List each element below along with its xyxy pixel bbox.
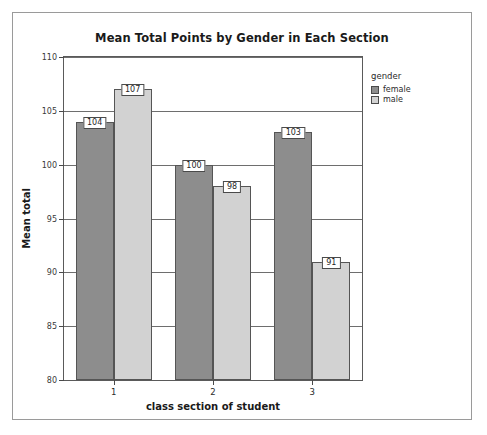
y-tick-mark — [59, 165, 64, 166]
y-tick-label: 105 — [42, 106, 57, 115]
x-tick-label: 3 — [310, 387, 315, 397]
plot-area: 808590951001051101041071100982103913 — [63, 56, 363, 381]
bar-value-label: 100 — [182, 160, 205, 172]
y-tick-mark — [59, 57, 64, 58]
y-tick-label: 110 — [42, 53, 57, 62]
bar-male-section-2[interactable]: 98 — [213, 186, 251, 380]
y-tick-mark — [59, 380, 64, 381]
bar-value-label: 107 — [121, 84, 144, 96]
x-tick-mark — [312, 380, 313, 385]
y-tick-mark — [59, 111, 64, 112]
bar-male-section-1[interactable]: 107 — [114, 89, 152, 380]
y-axis-title: Mean total — [19, 56, 33, 381]
y-axis-title-label: Mean total — [21, 188, 32, 249]
bar-female-section-2[interactable]: 100 — [175, 165, 213, 380]
legend-swatch-icon — [371, 86, 379, 94]
y-tick-label: 100 — [42, 160, 57, 169]
legend-items: femalemale — [371, 85, 466, 104]
legend-swatch-icon — [371, 96, 379, 104]
legend-label: male — [383, 95, 403, 104]
y-tick-label: 80 — [47, 376, 57, 385]
legend-item-female[interactable]: female — [371, 85, 466, 94]
chart-title: Mean Total Points by Gender in Each Sect… — [13, 31, 471, 45]
bar-female-section-1[interactable]: 104 — [76, 122, 114, 380]
legend-label: female — [383, 85, 411, 94]
bar-value-label: 91 — [322, 257, 340, 269]
y-tick-mark — [59, 219, 64, 220]
bar-male-section-3[interactable]: 91 — [312, 262, 350, 380]
bar-value-label: 98 — [223, 181, 241, 193]
y-tick-label: 85 — [47, 322, 57, 331]
x-tick-label: 2 — [210, 387, 215, 397]
x-tick-mark — [114, 380, 115, 385]
y-tick-mark — [59, 326, 64, 327]
gridline — [64, 111, 362, 112]
y-tick-mark — [59, 272, 64, 273]
x-tick-mark — [213, 380, 214, 385]
chart-legend: gender femalemale — [371, 71, 466, 105]
bar-value-label: 104 — [83, 117, 106, 129]
bar-value-label: 103 — [282, 127, 305, 139]
legend-title: gender — [371, 71, 466, 81]
y-tick-label: 90 — [47, 268, 57, 277]
gridline — [64, 57, 362, 58]
y-tick-label: 95 — [47, 214, 57, 223]
bar-female-section-3[interactable]: 103 — [274, 132, 312, 380]
chart-figure: Mean Total Points by Gender in Each Sect… — [12, 12, 472, 420]
x-tick-label: 1 — [111, 387, 116, 397]
legend-item-male[interactable]: male — [371, 95, 466, 104]
x-axis-title: class section of student — [63, 401, 363, 412]
